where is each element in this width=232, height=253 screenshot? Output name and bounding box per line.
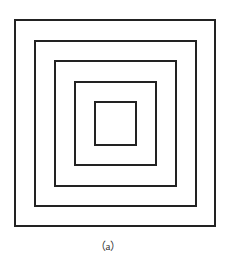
figure-caption: （a）: [0, 237, 216, 253]
square-5-inner: [94, 101, 137, 146]
